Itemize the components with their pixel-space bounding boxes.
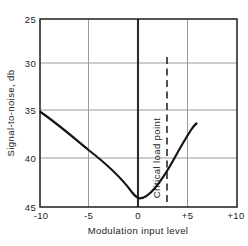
y-tick-label-25: 25 — [25, 14, 36, 25]
x-tick-label-zero: 0 — [135, 210, 141, 221]
y-axis-title: Signal-to-noise, db — [5, 70, 16, 157]
y-tick-label-35: 35 — [25, 105, 36, 116]
signal-to-noise-chart: Critical load point 25 30 35 40 45 -10 -… — [0, 0, 248, 246]
x-tick-label-minus10: -10 — [34, 210, 49, 221]
x-tick-label-minus5: -5 — [84, 210, 93, 221]
y-tick-label-30: 30 — [25, 58, 36, 69]
x-tick-label-plus5: +5 — [182, 210, 193, 221]
x-tick-label-plus10: +10 — [227, 210, 244, 221]
x-axis-title: Modulation input level — [88, 225, 189, 236]
y-tick-label-40: 40 — [25, 153, 36, 164]
